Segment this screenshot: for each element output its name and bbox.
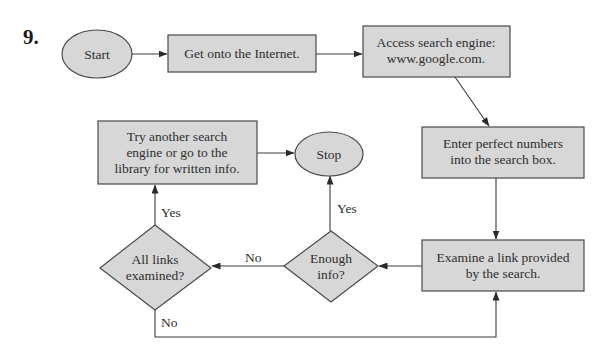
node-access-engine: Access search engine: www.google.com. (363, 26, 510, 77)
start-label: Start (84, 47, 110, 62)
all-links-line-2: examined? (126, 268, 184, 283)
node-enter-numbers: Enter perfect numbers into the search bo… (422, 127, 584, 178)
node-stop: Stop (295, 132, 363, 176)
edge-all-links-no-to-examine (155, 292, 496, 337)
node-start: Start (62, 30, 132, 78)
all-links-line-1: All links (132, 252, 179, 267)
problem-number: 9. (23, 25, 39, 49)
enter-numbers-line-2: into the search box. (450, 152, 556, 167)
node-enough-info: Enough info? (284, 231, 378, 302)
examine-link-line-2: by the search. (466, 266, 541, 281)
try-another-line-3: library for written info. (114, 161, 239, 176)
get-online-line-1: Get onto the Internet. (184, 46, 299, 61)
label-enough-yes: Yes (337, 201, 357, 216)
label-all-links-yes: Yes (161, 205, 181, 220)
stop-label: Stop (317, 147, 342, 162)
try-another-line-2: engine or go to the (126, 145, 227, 160)
enough-info-line-1: Enough (310, 251, 352, 266)
node-get-online: Get onto the Internet. (168, 35, 316, 72)
edge-access-to-enter (455, 77, 489, 126)
label-enough-no: No (245, 250, 262, 265)
try-another-line-1: Try another search (127, 129, 228, 144)
access-engine-line-2: www.google.com. (387, 51, 485, 66)
node-examine-link: Examine a link provided by the search. (422, 240, 584, 291)
access-engine-line-1: Access search engine: (376, 35, 495, 50)
edges (132, 54, 496, 337)
node-all-links: All links examined? (100, 225, 211, 310)
enough-info-line-2: info? (317, 267, 345, 282)
node-try-another: Try another search engine or go to the l… (98, 121, 257, 184)
examine-link-line-1: Examine a link provided (436, 250, 569, 265)
label-all-links-no: No (161, 315, 178, 330)
enter-numbers-line-1: Enter perfect numbers (443, 136, 563, 151)
